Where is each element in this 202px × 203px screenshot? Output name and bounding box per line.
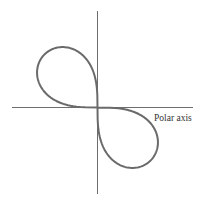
polar-axis-label: Polar axis	[154, 113, 192, 123]
polar-diagram: Polar axis	[0, 0, 202, 203]
